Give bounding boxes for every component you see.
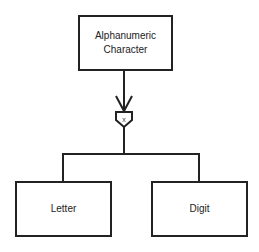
node-letter: Letter [15,181,112,237]
node-label-line2: Character [95,43,156,57]
node-label: Digit [189,202,209,216]
node-label-line1: Alphanumeric [95,29,156,43]
xor-symbol: x [122,116,126,123]
node-alphanumeric-character: Alphanumeric Character [78,15,173,71]
node-digit: Digit [151,181,248,237]
node-label: Alphanumeric Character [95,29,156,57]
node-label: Letter [51,202,77,216]
diagram-canvas: x Alphanumeric Character Letter Digit [0,0,259,252]
